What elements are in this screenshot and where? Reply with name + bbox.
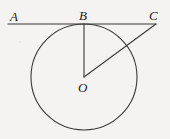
- point-label-o: O: [78, 81, 87, 94]
- point-label-a: A: [10, 10, 18, 23]
- geometry-diagram: A B C O: [0, 0, 170, 139]
- point-label-c: C: [149, 9, 158, 22]
- point-label-b: B: [79, 9, 87, 22]
- segment-oc: [84, 24, 156, 77]
